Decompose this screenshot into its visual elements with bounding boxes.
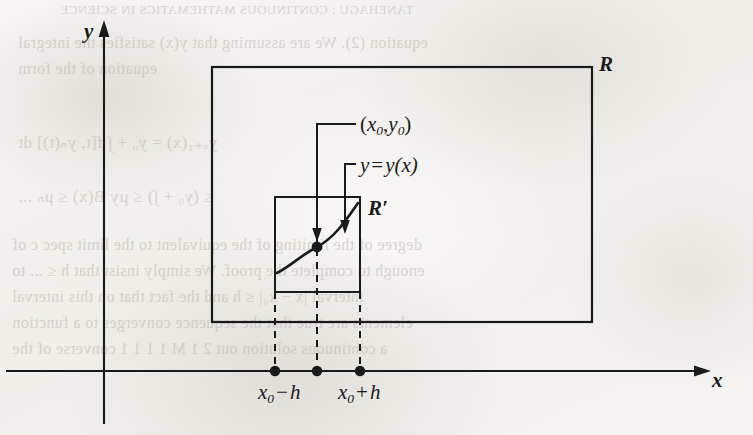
curve-equals: = [369,153,385,177]
point-close-paren: ) [404,112,411,136]
curve-rhs: y(x) [385,153,418,177]
xplus-op: + [354,380,370,404]
xplus-term: h [370,380,381,404]
leader-point [312,124,356,242]
tick-dot-x-center [312,366,322,376]
xminus-term: h [290,380,301,404]
xminus-op: − [274,380,290,404]
xminus-var: x [258,380,267,404]
point-y-var: y [388,112,397,136]
point-open-paren: ( [360,112,367,136]
point-x-var: x [367,112,376,136]
y-axis-label: y [84,19,93,44]
x-tick-label-minus-h: x0−h [258,380,300,407]
x-tick-label-plus-h: x0+h [338,380,380,407]
leader-point-arrowhead [312,228,322,242]
x-axis-arrowhead [694,366,711,377]
y-axis-arrowhead [99,20,110,37]
y-axis [99,20,110,424]
tick-dot-x-plus-h [355,366,365,376]
curve-equation-label: y=y(x) [360,153,418,178]
marked-point-label: (x0,y0) [360,112,411,139]
x-axis-label: x [712,368,723,393]
inner-region-label: R′ [368,196,388,221]
curve-lhs: y [360,153,369,177]
figure-page: TANEHAGU : CONTINUOUS MATHEMATICS IN SCI… [0,0,753,435]
xplus-var: x [338,380,347,404]
leader-curve [340,164,356,234]
marked-point-dot [312,242,323,253]
tick-dot-x-minus-h [270,366,280,376]
outer-region-rect [212,67,592,322]
outer-region-label: R [599,52,613,77]
